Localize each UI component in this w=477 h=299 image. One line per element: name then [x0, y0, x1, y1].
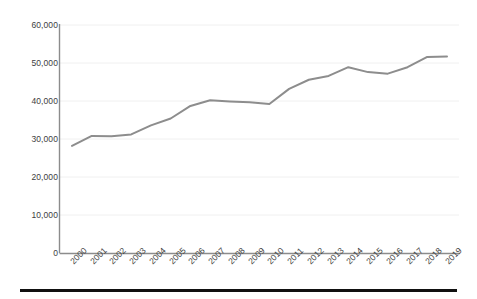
bottom-rule — [20, 289, 457, 292]
x-tick-label: 2015 — [364, 245, 385, 266]
x-tick-label: 2005 — [167, 245, 188, 266]
x-tick-label: 2017 — [404, 245, 425, 266]
x-tick-label: 2011 — [285, 246, 305, 266]
x-tick-label: 2003 — [127, 245, 148, 266]
x-tick-label: 2012 — [305, 245, 326, 266]
x-tick-label: 2014 — [344, 245, 365, 266]
x-tick-label: 2004 — [147, 245, 168, 266]
x-tick-label: 2002 — [107, 245, 128, 266]
x-tick-label: 2018 — [423, 245, 444, 266]
x-tick-label: 2010 — [265, 245, 286, 266]
x-tick-label: 2006 — [186, 245, 207, 266]
x-tick-label: 2009 — [246, 245, 267, 266]
x-tick-label: 2013 — [325, 245, 346, 266]
x-tick-label: 2008 — [226, 245, 247, 266]
chart-figure: 010,00020,00030,00040,00050,00060,000 20… — [0, 0, 477, 299]
x-axis-tick-labels: 2000200120022003200420052006200720082009… — [0, 0, 477, 299]
x-tick-label: 2019 — [443, 245, 464, 266]
x-tick-label: 2007 — [206, 245, 227, 266]
x-tick-label: 2016 — [384, 245, 405, 266]
x-tick-label: 2001 — [88, 245, 109, 266]
x-tick-label: 2000 — [68, 245, 89, 266]
